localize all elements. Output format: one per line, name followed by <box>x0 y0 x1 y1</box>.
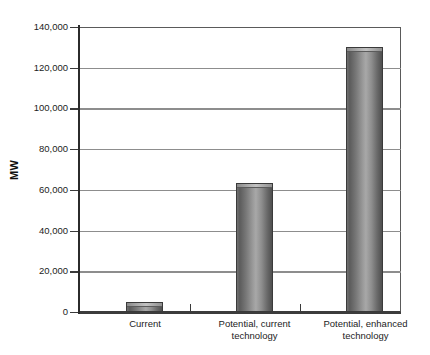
bar-top-cap <box>347 48 382 52</box>
bar-top-cap <box>237 184 272 188</box>
x-label-line2: technology <box>205 330 304 342</box>
x-label-line1: Potential, current <box>205 318 304 330</box>
gridline-0-baseline <box>78 312 401 314</box>
category-separator-1 <box>190 304 191 313</box>
x-label-potential-current-technology: Potential, current technology <box>205 318 304 342</box>
y-axis-tick-labels: 140,000 120,000 100,000 80,000 60,000 40… <box>6 0 68 355</box>
x-label-line1: Potential, enhanced <box>313 318 418 330</box>
x-label-current: Current <box>96 318 194 330</box>
y-tick-label-0: 0 <box>10 307 68 317</box>
y-tick-label-40000: 40,000 <box>10 226 68 236</box>
y-tick-label-100000: 100,000 <box>10 103 68 113</box>
y-tick-label-60000: 60,000 <box>10 185 68 195</box>
bar-current[interactable] <box>126 302 163 312</box>
bar-potential-current-technology[interactable] <box>236 183 273 312</box>
x-label-potential-enhanced-technology: Potential, enhanced technology <box>313 318 418 342</box>
y-tick-label-120000: 120,000 <box>10 63 68 73</box>
y-tick-label-140000: 140,000 <box>10 22 68 32</box>
x-label-line1: Current <box>96 318 194 330</box>
y-tick-label-20000: 20,000 <box>10 266 68 276</box>
x-label-line2: technology <box>313 330 418 342</box>
bar-potential-enhanced-technology[interactable] <box>346 47 383 312</box>
category-separator-2 <box>300 304 301 313</box>
y-tick-label-80000: 80,000 <box>10 144 68 154</box>
bar-top-cap <box>127 303 162 307</box>
bar-chart: MW 140,000 120,000 100,000 80,000 60,000… <box>0 0 430 355</box>
y-axis-line <box>78 25 80 314</box>
